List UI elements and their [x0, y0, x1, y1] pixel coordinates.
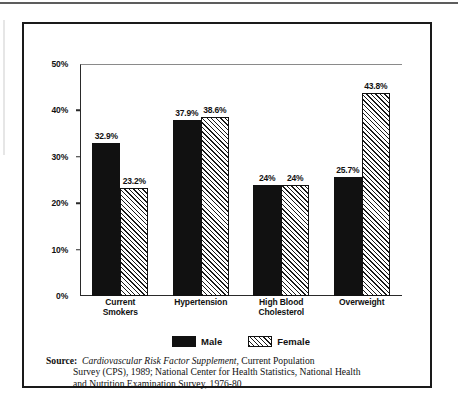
source-line-2: Survey (CPS), 1989; National Center for …	[46, 366, 418, 377]
bar-female[interactable]	[201, 117, 229, 296]
x-axis: CurrentSmokersHypertensionHigh BloodChol…	[80, 298, 402, 324]
x-axis-category-label: CurrentSmokers	[80, 298, 161, 317]
bar-group: 37.9%38.6%	[161, 64, 242, 296]
chart-legend: MaleFemale	[80, 333, 402, 349]
bar-value-label: 23.2%	[123, 176, 146, 186]
legend-swatch-icon	[172, 336, 196, 347]
source-prefix: Source:	[46, 355, 77, 366]
bar-group: 24%24%	[241, 64, 322, 296]
bar-value-label: 38.6%	[203, 105, 226, 115]
bar-value-label: 43.8%	[364, 81, 387, 91]
bar-value-label: 32.9%	[95, 131, 118, 141]
y-axis-tick-label: 40%	[52, 105, 68, 115]
bar-group: 25.7%43.8%	[322, 64, 403, 296]
bar-value-label: 24%	[259, 173, 275, 183]
x-axis-category-label: Hypertension	[161, 298, 242, 308]
x-axis-category-line: Cholesterol	[241, 308, 322, 318]
x-axis-category-line: Overweight	[322, 298, 403, 308]
y-axis-tick-label: 10%	[52, 245, 68, 255]
x-axis-category-label: High BloodCholesterol	[241, 298, 322, 317]
bar-value-label: 24%	[287, 173, 303, 183]
x-axis-category-label: Overweight	[322, 298, 403, 308]
bar-group: 32.9%23.2%	[80, 64, 161, 296]
legend-item-female[interactable]: Female	[248, 336, 310, 347]
source-line-3: and Nutrition Examination Survey, 1976-8…	[46, 378, 418, 389]
y-axis-tick-label: 20%	[52, 198, 68, 208]
bar-male[interactable]	[173, 120, 201, 296]
source-note: Source: Cardiovascular Risk Factor Suppl…	[46, 355, 418, 389]
bar-value-label: 37.9%	[175, 108, 198, 118]
figure-container: 0%10%20%30%40%50% 32.9%23.2%37.9%38.6%24…	[22, 22, 432, 388]
y-axis: 0%10%20%30%40%50%	[24, 64, 76, 296]
bar-chart: 0%10%20%30%40%50% 32.9%23.2%37.9%38.6%24…	[24, 24, 434, 390]
bar-female[interactable]	[120, 188, 148, 296]
page-edge-artifact	[3, 20, 5, 155]
x-axis-category-line: Hypertension	[161, 298, 242, 308]
bar-male[interactable]	[92, 143, 120, 296]
x-axis-category-line: Smokers	[80, 308, 161, 318]
bar-female[interactable]	[281, 185, 309, 296]
bars-layer: 32.9%23.2%37.9%38.6%24%24%25.7%43.8%	[80, 64, 402, 296]
y-axis-tick-label: 50%	[52, 59, 68, 69]
bar-value-label: 25.7%	[336, 165, 359, 175]
page-top-rule	[0, 2, 458, 4]
source-publication-title: Cardiovascular Risk Factor Supplement	[82, 355, 236, 366]
legend-swatch-icon	[248, 336, 272, 347]
source-line-1-tail: , Current Population	[237, 355, 315, 366]
bar-male[interactable]	[334, 177, 362, 296]
bar-male[interactable]	[253, 185, 281, 296]
legend-item-male[interactable]: Male	[172, 336, 222, 347]
bar-female[interactable]	[362, 93, 390, 296]
legend-label: Male	[201, 336, 222, 347]
y-axis-tick-label: 0%	[56, 291, 68, 301]
legend-label: Female	[277, 336, 310, 347]
source-line-1: Source: Cardiovascular Risk Factor Suppl…	[46, 355, 418, 366]
y-axis-tick-label: 30%	[52, 152, 68, 162]
